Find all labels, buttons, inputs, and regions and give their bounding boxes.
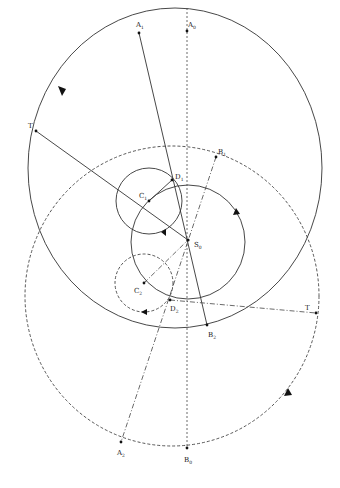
label-b0: B0 xyxy=(184,456,192,465)
point-c2 xyxy=(143,282,146,285)
label-c1: C1 xyxy=(139,192,147,201)
label-b1: B1 xyxy=(218,148,226,157)
label-d1: D1 xyxy=(175,173,184,182)
point-t-left xyxy=(35,130,38,133)
point-a2 xyxy=(120,441,123,444)
deferent-solid-circle xyxy=(28,8,322,328)
point-b2 xyxy=(206,324,209,327)
arrow-deferent-solid-icon xyxy=(58,86,66,96)
point-b1 xyxy=(215,156,218,159)
point-b0 xyxy=(186,447,189,450)
label-b2: B2 xyxy=(208,331,216,340)
point-d2 xyxy=(169,299,172,302)
arrow-deferent-dashed-icon xyxy=(284,388,292,396)
label-t-left: T xyxy=(28,122,33,130)
epicycle-diagram: A1 A0 T D1 C1 B1 S0 C2 D2 B2 T A2 B0 xyxy=(0,0,340,488)
label-d2: D2 xyxy=(170,305,179,314)
point-d1 xyxy=(171,179,174,182)
label-c2: C2 xyxy=(134,287,142,296)
label-a1: A1 xyxy=(135,21,144,30)
label-a2: A2 xyxy=(116,449,125,458)
line-d2-t xyxy=(170,300,316,313)
point-t-right xyxy=(315,312,318,315)
line-c1-d1 xyxy=(149,180,172,201)
label-t-right: T xyxy=(305,304,310,312)
point-c1 xyxy=(148,200,151,203)
line-b1-a2 xyxy=(121,157,216,442)
point-a1 xyxy=(138,32,141,35)
arrow-epicycle-2-icon xyxy=(141,309,147,315)
point-a0 xyxy=(186,30,189,33)
label-a0: A0 xyxy=(187,21,196,30)
point-s0 xyxy=(186,238,189,241)
arrow-epicycle-1-icon xyxy=(161,229,166,236)
deferent-dashed-circle xyxy=(25,146,319,446)
label-s0: S0 xyxy=(194,241,202,250)
